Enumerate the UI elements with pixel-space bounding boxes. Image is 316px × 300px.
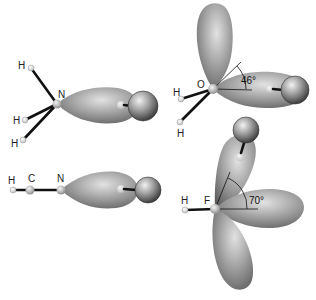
atom-label-h: H xyxy=(11,138,18,149)
fluorine-atom xyxy=(210,204,220,214)
nitrogen-atom xyxy=(57,186,66,195)
atom-label-h: H xyxy=(8,175,15,186)
hydrogen-atom xyxy=(22,117,28,123)
hydrogen-cyanide-panel: H C N xyxy=(8,172,161,209)
donor-atom-sphere xyxy=(233,117,259,143)
angle-label: 70° xyxy=(249,195,264,206)
angle-label: 46° xyxy=(241,75,256,86)
donor-atom-sphere xyxy=(281,76,309,104)
donor-bond xyxy=(124,189,136,190)
atom-label-h: H xyxy=(181,195,188,206)
atom-label-h: H xyxy=(177,128,184,139)
atom-label-h: H xyxy=(13,115,20,126)
n-h-bond xyxy=(25,104,57,120)
oxygen-atom xyxy=(208,84,218,94)
hydrogen-atom xyxy=(177,119,183,125)
hydrogen-atom xyxy=(20,137,26,143)
atom-label-c: C xyxy=(28,173,35,184)
donor-atom-sphere xyxy=(128,91,158,121)
hydrogen-fluoride-panel: 70° H F xyxy=(181,117,304,290)
hydrogen-atom xyxy=(10,187,16,193)
atom-label-n: N xyxy=(58,89,65,100)
atom-label-h: H xyxy=(173,87,180,98)
lone-pair-lobe xyxy=(197,3,233,89)
hydrogen-atom xyxy=(28,65,34,71)
atom-label-f: F xyxy=(204,195,210,206)
n-h-bond xyxy=(23,104,57,140)
donor-atom-sphere xyxy=(135,177,161,203)
n-h-bond xyxy=(31,68,57,104)
hydrogen-bond-diagram: N H H H 46° O H H H C N xyxy=(0,0,316,300)
atom-label-o: O xyxy=(197,79,205,90)
atom-label-h: H xyxy=(18,60,25,71)
donor-hydrogen-atom xyxy=(236,153,244,161)
carbon-atom xyxy=(26,186,35,195)
nitrogen-atom xyxy=(53,100,62,109)
ammonia-panel: N H H H xyxy=(11,60,158,149)
hydrogen-atom xyxy=(182,207,188,213)
atom-label-n: N xyxy=(57,173,64,184)
